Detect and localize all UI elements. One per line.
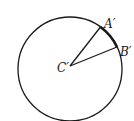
circle-diagram: A′ B′ C′ — [0, 0, 134, 121]
label-b: B′ — [119, 45, 132, 59]
label-c: C′ — [57, 61, 69, 75]
label-a: A′ — [103, 17, 116, 31]
